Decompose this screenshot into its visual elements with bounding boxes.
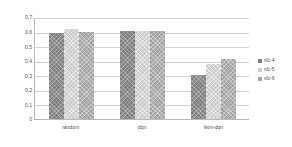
legend-label: sfc-5 <box>264 67 274 72</box>
x-axis: randomdqnlstm-dqn <box>35 124 249 130</box>
legend-item-sfc-6: sfc-6 <box>258 74 292 83</box>
x-tick-label: dqn <box>106 124 177 130</box>
legend-label: sfc-4 <box>264 58 274 63</box>
y-tick-label: 0.4 <box>4 59 32 64</box>
plot-area <box>34 18 249 120</box>
y-tick-label: 0.5 <box>4 45 32 50</box>
bar-chart: 0.70.60.50.40.30.20.10 randomdqnlstm-dqn… <box>0 0 292 147</box>
legend-swatch-icon <box>258 77 262 81</box>
bar-sfc-4-lstm-dqn <box>191 75 206 119</box>
y-tick-label: 0.1 <box>4 103 32 108</box>
legend-swatch-icon <box>258 68 262 72</box>
bar-sfc-6-dqn <box>150 31 165 119</box>
x-tick-label: lstm-dqn <box>178 124 249 130</box>
x-tick-label: random <box>35 124 106 130</box>
legend-swatch-icon <box>258 59 262 63</box>
y-axis: 0.70.60.50.40.30.20.10 <box>0 0 32 147</box>
y-tick-label: 0.7 <box>4 15 32 20</box>
bar-group-lstm-dqn <box>178 18 249 119</box>
bar-sfc-5-dqn <box>135 31 150 119</box>
bar-sfc-6-random <box>79 32 94 119</box>
y-tick-label: 0 <box>4 117 32 122</box>
y-tick-label: 0.3 <box>4 74 32 79</box>
bar-sfc-4-dqn <box>120 31 135 119</box>
bar-sfc-6-lstm-dqn <box>221 59 236 119</box>
y-tick-label: 0.6 <box>4 30 32 35</box>
legend-item-sfc-4: sfc-4 <box>258 56 292 65</box>
bar-sfc-5-random <box>64 29 79 119</box>
bar-sfc-5-lstm-dqn <box>206 64 221 119</box>
bar-groups <box>36 18 249 119</box>
bar-group-dqn <box>107 18 178 119</box>
bar-group-random <box>36 18 107 119</box>
legend-label: sfc-6 <box>264 76 274 81</box>
bar-sfc-4-random <box>49 33 64 119</box>
y-tick-label: 0.2 <box>4 88 32 93</box>
legend: sfc-4sfc-5sfc-6 <box>258 56 292 83</box>
legend-item-sfc-5: sfc-5 <box>258 65 292 74</box>
